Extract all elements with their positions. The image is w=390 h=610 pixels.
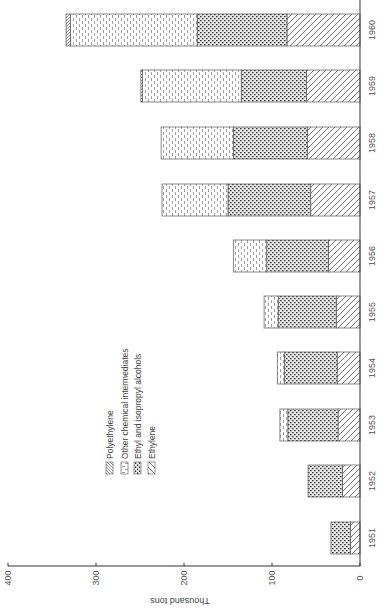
bar-segment-ethylene-1955	[336, 296, 360, 328]
year-label: 1951	[367, 528, 377, 548]
bar-segment-ethylene-1951	[350, 522, 360, 554]
legend: PolyethyleneOther chemical intermediates…	[105, 348, 157, 474]
bar-segment-ethyl-and-isopropyl-alcohols-1952	[308, 465, 342, 497]
bar-segment-other-chemical-intermediates-1955	[264, 296, 278, 328]
legend-label: Other chemical intermediates	[120, 348, 130, 459]
bar-segment-ethylene-1953	[338, 409, 360, 441]
year-label: 1952	[367, 471, 377, 491]
year-label: 1954	[367, 358, 377, 378]
bar-segment-ethylene-1952	[342, 465, 360, 497]
bar-segment-ethyl-and-isopropyl-alcohols-1954	[284, 352, 337, 384]
value-axis-title: Thousand tons	[150, 596, 210, 606]
bar-segment-ethylene-1960	[287, 14, 360, 46]
legend-label: Polyethylene	[105, 410, 115, 459]
legend-item: Ethylene	[147, 426, 157, 474]
year-label: 1956	[367, 246, 377, 266]
bar-segment-other-chemical-intermediates-1956	[233, 240, 266, 272]
bar-segment-polyethylene-1959	[141, 70, 143, 102]
bar-segment-ethyl-and-isopropyl-alcohols-1959	[241, 70, 306, 102]
year-label: 1958	[367, 133, 377, 153]
year-labels: 1951195219531954195519561957195819591960	[367, 20, 377, 548]
bar-segment-ethyl-and-isopropyl-alcohols-1955	[278, 296, 336, 328]
bar-segment-ethyl-and-isopropyl-alcohols-1951	[331, 522, 350, 554]
year-label: 1955	[367, 302, 377, 322]
legend-item: Other chemical intermediates	[120, 348, 130, 474]
legend-item: Ethyl and isopropyl alcohols	[133, 354, 143, 474]
bar-segment-other-chemical-intermediates-1953	[280, 409, 288, 441]
legend-swatch	[148, 462, 155, 474]
bar-segment-polyethylene-1960	[66, 14, 70, 46]
tick-label: 100	[267, 570, 277, 585]
tick-label: 0	[355, 575, 365, 580]
tick-label: 200	[179, 570, 189, 585]
bar-segment-ethylene-1956	[328, 240, 360, 272]
legend-label: Ethyl and isopropyl alcohols	[133, 354, 143, 459]
bar-segment-ethylene-1958	[307, 127, 360, 159]
tick-label: 400	[3, 570, 13, 585]
bar-segment-ethylene-1957	[311, 184, 360, 216]
year-label: 1959	[367, 76, 377, 96]
bar-segment-other-chemical-intermediates-1958	[161, 127, 233, 159]
legend-label: Ethylene	[147, 426, 157, 459]
bar-segment-other-chemical-intermediates-1959	[143, 70, 242, 102]
year-label: 1957	[367, 190, 377, 210]
bar-segment-ethyl-and-isopropyl-alcohols-1953	[288, 409, 338, 441]
year-label: 1960	[367, 20, 377, 40]
bar-segment-ethyl-and-isopropyl-alcohols-1957	[228, 184, 311, 216]
bar-segment-other-chemical-intermediates-1954	[277, 352, 284, 384]
bar-segment-ethylene-1954	[337, 352, 360, 384]
bar-segment-ethyl-and-isopropyl-alcohols-1960	[197, 14, 287, 46]
bar-segment-ethyl-and-isopropyl-alcohols-1956	[267, 240, 329, 272]
bar-segment-other-chemical-intermediates-1957	[162, 184, 228, 216]
bar-segment-ethylene-1959	[306, 70, 360, 102]
bar-segment-ethyl-and-isopropyl-alcohols-1958	[233, 127, 307, 159]
legend-swatch	[121, 462, 128, 474]
year-label: 1953	[367, 415, 377, 435]
legend-item: Polyethylene	[105, 410, 115, 474]
bar-segment-other-chemical-intermediates-1960	[70, 14, 197, 46]
stacked-bar-chart: 0100200300400 19511952195319541955195619…	[0, 0, 390, 610]
tick-label: 300	[91, 570, 101, 585]
legend-swatch	[106, 462, 113, 474]
legend-swatch	[134, 462, 141, 474]
